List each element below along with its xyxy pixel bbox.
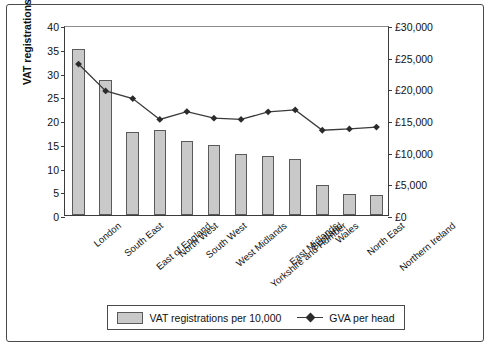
diamond-marker-icon [346,126,353,133]
y-axis-right-tick-label: £20,000 [395,84,433,96]
y-axis-left-tick-label: 10 [47,164,59,176]
legend-bar-swatch [117,312,143,324]
y-axis-right-tick-label: £25,000 [395,53,433,65]
y-axis-right-tick-label: £15,000 [395,116,433,128]
y-axis-left-tick-label: 15 [47,140,59,152]
y-axis-right-tick-label: £5,000 [395,179,427,191]
y-axis-left-title: VAT registrations [21,0,33,85]
diamond-marker-icon [211,115,218,122]
line-series [65,27,390,217]
x-label-south-east: South East [122,220,165,259]
diamond-marker-icon [265,108,272,115]
y-axis-left-tick-label: 35 [47,45,59,57]
gva-line-path [79,64,377,130]
plot-area: VAT registrations GVA per head 051015202… [64,26,389,216]
y-axis-right-tick-label: £10,000 [395,148,433,160]
y-axis-left-tick-label: 5 [53,187,59,199]
y-axis-left-tick-label: 30 [47,69,59,81]
y-axis-left-tick-label: 20 [47,116,59,128]
chart-legend: VAT registrations per 10,000 GVA per hea… [107,305,405,330]
x-label-north-east: North East [365,220,407,258]
y-axis-left-tick-label: 40 [47,21,59,33]
legend-bar-label: VAT registrations per 10,000 [149,312,281,324]
y-axis-left-tick-mark [61,217,65,218]
y-axis-left-tick-label: 25 [47,92,59,104]
y-axis-right-tick-label: £30,000 [395,21,433,33]
legend-entry-bar: VAT registrations per 10,000 [117,312,281,324]
diamond-marker-icon [183,108,190,115]
diamond-marker-icon [373,124,380,131]
chart-frame: VAT registrations GVA per head 051015202… [6,4,484,342]
diamond-marker-icon [306,312,316,322]
y-axis-left-tick-label: 0 [53,211,59,223]
diamond-marker-icon [238,116,245,123]
x-label-london: London [91,220,123,249]
y-axis-right-tick-mark [388,217,392,218]
legend-entry-line: GVA per head [297,312,394,324]
legend-line-swatch [297,313,323,323]
legend-line-label: GVA per head [329,312,394,324]
